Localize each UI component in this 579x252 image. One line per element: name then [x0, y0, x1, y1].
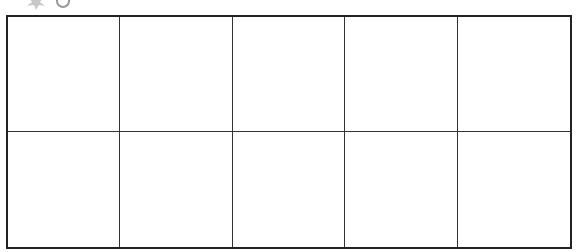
grid-cell: [233, 132, 345, 247]
grid-cell: [8, 132, 120, 247]
grid-cell: [233, 17, 345, 132]
grid-cell: [8, 17, 120, 132]
star-burst-icon: [26, 0, 46, 10]
grid-cell: [345, 132, 457, 247]
grid-cell: [458, 17, 570, 132]
circle-icon: [56, 0, 70, 8]
grid-cell: [120, 17, 232, 132]
blank-grid-table: [6, 15, 572, 249]
grid-cell: [345, 17, 457, 132]
grid-cell: [458, 132, 570, 247]
grid-cell: [120, 132, 232, 247]
